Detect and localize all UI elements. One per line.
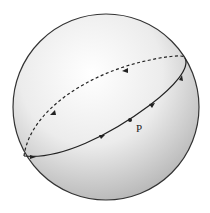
point-p-label: P <box>136 122 142 134</box>
sphere-diagram <box>0 0 210 213</box>
sphere <box>13 14 199 200</box>
point-p-marker <box>128 118 132 122</box>
